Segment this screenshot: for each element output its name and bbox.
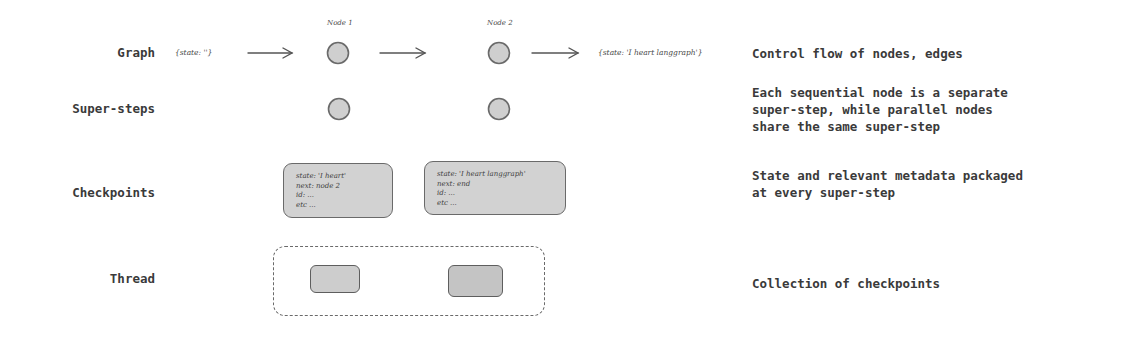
description-checkpoints: State and relevant metadata packaged at …	[752, 167, 1023, 201]
checkpoint-1-etc: etc ...	[296, 201, 392, 211]
description-graph: Control flow of nodes, edges	[752, 45, 963, 62]
description-thread: Collection of checkpoints	[752, 275, 940, 292]
thread-checkpoint-1	[310, 265, 360, 293]
checkpoint-1-next: next: node 2	[296, 182, 392, 192]
arrow-icon	[532, 48, 578, 58]
checkpoint-2-id: id: ...	[437, 189, 565, 199]
checkpoint-1: state: 'I heart' next: node 2 id: ... et…	[283, 163, 393, 218]
super-step-1-circle	[329, 99, 350, 120]
checkpoint-2: state: 'I heart langgraph' next: end id:…	[424, 161, 566, 215]
checkpoint-1-id: id: ...	[296, 191, 392, 201]
arrow-icon	[380, 48, 425, 58]
checkpoint-2-next: next: end	[437, 180, 565, 190]
checkpoint-2-etc: etc ...	[437, 199, 565, 209]
node-2-circle	[489, 43, 510, 64]
node-1-circle	[328, 43, 349, 64]
thread-checkpoint-2	[448, 265, 503, 297]
description-super-steps: Each sequential node is a separate super…	[752, 84, 1008, 135]
super-step-2-circle	[489, 99, 510, 120]
arrow-icon	[248, 48, 292, 58]
checkpoint-2-state: state: 'I heart langgraph'	[437, 170, 565, 180]
checkpoint-1-state: state: 'I heart'	[296, 172, 392, 182]
